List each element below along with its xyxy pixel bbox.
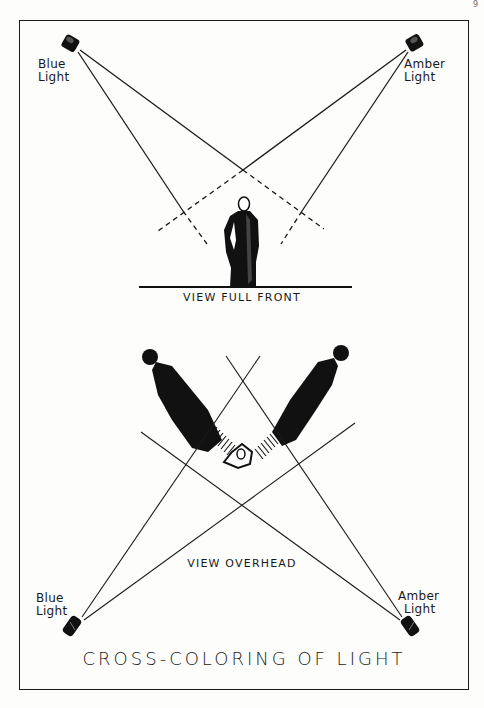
top-amber-light-icon bbox=[404, 33, 424, 53]
bottom-blue-light-label: Blue Light bbox=[36, 592, 67, 618]
bottom-light-beams bbox=[82, 356, 402, 620]
top-blue-light-label: Blue Light bbox=[38, 58, 69, 84]
top-amber-light-label: Amber Light bbox=[404, 58, 445, 84]
standing-figure-icon bbox=[224, 197, 259, 287]
diagram-page: 9 bbox=[0, 0, 484, 708]
view-full-front-caption: View Full Front bbox=[0, 291, 484, 304]
view-overhead-caption: View Overhead bbox=[0, 557, 484, 570]
label-line: Light bbox=[38, 71, 69, 84]
top-blue-light-icon bbox=[60, 33, 80, 53]
bottom-amber-light-icon bbox=[399, 614, 420, 637]
bottom-amber-light-label: Amber Light bbox=[398, 590, 439, 616]
label-line: Light bbox=[404, 71, 445, 84]
left-shadow bbox=[142, 349, 238, 458]
right-shadow bbox=[255, 345, 349, 459]
label-line: Light bbox=[36, 605, 67, 618]
figure-title: CROSS-COLORING OF LIGHT bbox=[19, 648, 469, 669]
label-line: Light bbox=[398, 603, 439, 616]
